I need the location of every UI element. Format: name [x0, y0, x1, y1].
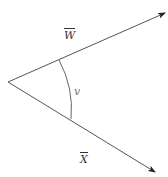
angle-arc [59, 60, 72, 119]
vector-x-text: X [80, 152, 88, 165]
vector-x-label: X [80, 152, 88, 165]
vector-w-line [8, 13, 165, 82]
angle-label: v [74, 86, 80, 97]
vector-w-text: W [64, 28, 75, 41]
vector-w-label: W [64, 28, 75, 41]
angle-diagram [0, 0, 168, 177]
